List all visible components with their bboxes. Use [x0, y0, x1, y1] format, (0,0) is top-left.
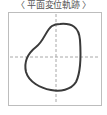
displacement-trajectory-plot	[0, 0, 107, 115]
